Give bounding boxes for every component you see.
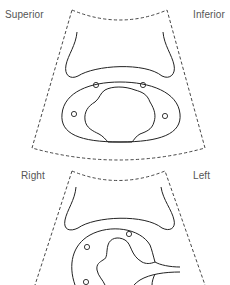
top-outer-oval [62,82,180,142]
bottom-upper-curve [65,187,175,230]
bottom-fan-outline [35,171,205,285]
bottom-dot-2 [84,244,89,249]
bottom-outer-arc [72,229,155,285]
top-dot-4 [162,113,167,118]
bottom-inner-shape [97,238,180,285]
top-upper-curve [66,32,175,77]
bottom-panel [35,171,205,285]
top-dot-3 [71,111,76,116]
top-panel [32,10,205,160]
bottom-dot-3 [83,279,88,284]
ultrasound-diagram [0,0,230,285]
bottom-inner-lower [134,272,180,285]
top-dot-2 [140,82,145,87]
bottom-dot-1 [126,231,131,236]
top-fan-outline [32,10,205,160]
top-inner-shape [85,87,155,142]
